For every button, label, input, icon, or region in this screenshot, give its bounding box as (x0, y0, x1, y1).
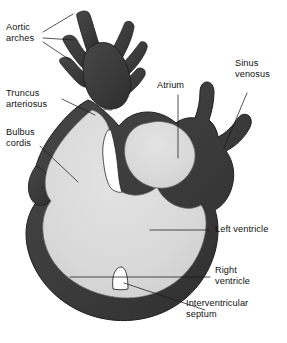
label-truncus-arteriosus: Truncus arteriosus (6, 88, 47, 110)
label-aortic-arches: Aortic arches (6, 22, 34, 44)
label-atrium: Atrium (157, 80, 184, 91)
label-left-ventricle: Left ventricle (215, 224, 268, 235)
label-right-ventricle: Right ventricle (215, 265, 250, 287)
embryonic-heart-illustration (0, 0, 287, 343)
label-sinus-venosus: Sinus venosus (235, 58, 270, 80)
label-bulbus-cordis: Bulbus cordis (6, 127, 35, 149)
label-interventricular-septum: Interventricular septum (186, 298, 248, 320)
heart-diagram-figure: Aortic arches Truncus arteriosus Bulbus … (0, 0, 287, 343)
leader-aortic-arch-a (43, 14, 73, 32)
